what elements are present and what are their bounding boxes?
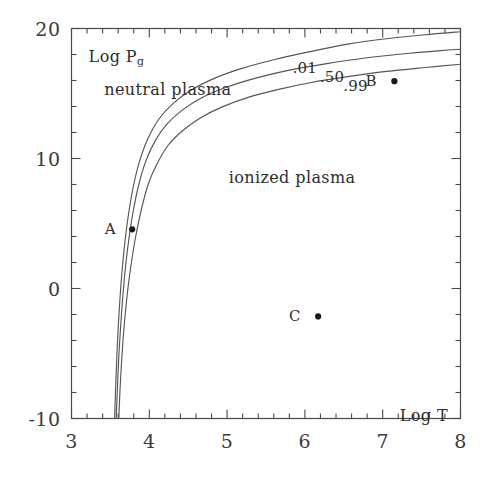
x-tick-label-7: 7 xyxy=(376,430,389,452)
annotation-neutral-plasma: neutral plasma xyxy=(104,80,231,99)
annotation-y-axis-title: Log Pg xyxy=(89,47,144,68)
y-tick-label-neg10: -10 xyxy=(28,408,60,430)
data-point-markers xyxy=(129,78,397,320)
y-tick-label-20: 20 xyxy=(35,18,60,40)
annotation-text: Log P xyxy=(89,47,137,66)
x-tick-label-3: 3 xyxy=(65,430,78,452)
y-tick-label-0: 0 xyxy=(48,278,61,300)
annotation-x-axis-title: Log T xyxy=(400,406,448,425)
annotation-ionized-plasma: ionized plasma xyxy=(229,168,356,187)
x-tick-label-6: 6 xyxy=(299,430,312,452)
curve-label-50: .50 xyxy=(320,68,344,86)
data-point-c xyxy=(315,313,321,319)
point-label-c: C xyxy=(289,307,301,325)
annotation-subscript: g xyxy=(137,55,144,68)
plot-figure: 345678 20100-10 neutral plasmaionized pl… xyxy=(0,0,490,478)
curve-label-01: .01 xyxy=(293,59,317,77)
curve-50 xyxy=(116,49,460,418)
x-tick-label-4: 4 xyxy=(143,430,156,452)
y-tick-label-10: 10 xyxy=(35,148,60,170)
curve-99 xyxy=(119,64,461,418)
point-label-b: B xyxy=(365,72,376,90)
data-point-b xyxy=(391,78,397,84)
point-label-a: A xyxy=(105,220,116,238)
x-tick-label-8: 8 xyxy=(454,430,467,452)
curve-label-99: .99 xyxy=(343,77,367,95)
x-tick-label-5: 5 xyxy=(221,430,234,452)
data-point-a xyxy=(129,226,135,232)
